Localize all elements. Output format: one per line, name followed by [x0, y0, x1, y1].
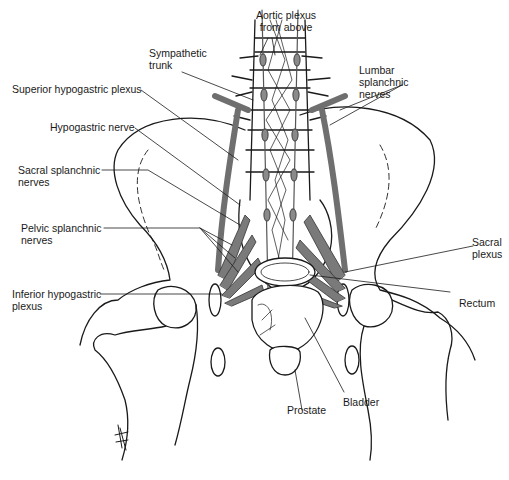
vertebra-2	[232, 70, 330, 96]
right-ilium-inner	[375, 145, 389, 230]
right-femur	[392, 300, 452, 420]
label-hypogastric-nerve: Hypogastric nerve	[50, 121, 135, 133]
label-pelvic-splanchnic-nerves: Pelvic splanchnic nerves	[21, 222, 102, 246]
vertebra-1	[240, 38, 322, 58]
right-femur-inner	[360, 326, 371, 460]
left-pubis	[211, 348, 225, 376]
label-aortic-plexus: Aortic plexus from above	[256, 9, 316, 33]
label-inferior-hypogastric-plexus: Inferior hypogastric plexus	[12, 288, 101, 312]
label-rectum: Rectum	[459, 297, 495, 309]
vertebra-4	[246, 150, 314, 172]
pelvic-nerves-diagram: Aortic plexus from above Sympathetic tru…	[0, 0, 509, 480]
right-femoral-head	[350, 285, 393, 327]
prostate	[270, 346, 301, 375]
label-prostate: Prostate	[287, 404, 326, 416]
left-femur-inner	[175, 305, 197, 445]
rectum	[255, 258, 315, 286]
label-bladder: Bladder	[343, 396, 379, 408]
aortic-plexus-web	[266, 20, 292, 270]
label-lumbar-splanchnic-nerves: Lumbar splanchnic nerves	[359, 64, 409, 100]
left-femur	[94, 326, 166, 460]
left-femoral-head	[154, 286, 196, 327]
bladder	[252, 285, 323, 351]
right-pubis	[345, 346, 359, 374]
label-superior-hypogastric-plexus: Superior hypogastric plexus	[12, 83, 142, 95]
left-ischium	[209, 284, 221, 316]
label-sympathetic-trunk: Sympathetic trunk	[149, 47, 207, 71]
label-sacral-splanchnic-nerves: Sacral splanchnic nerves	[18, 164, 100, 188]
label-sacral-plexus: Sacral plexus	[472, 236, 502, 260]
